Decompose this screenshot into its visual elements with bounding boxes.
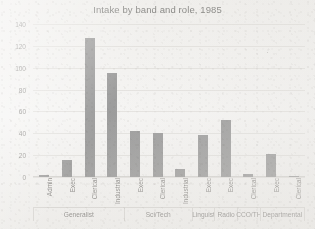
x-axis-group-labels: GeneralistSci/TechLinguistRadioCCO/THDep… — [33, 207, 305, 221]
x-axis-group-cell: Generalist — [33, 207, 124, 221]
x-axis-group-label: Linguist — [192, 211, 215, 218]
y-axis: 020406080100120140 — [0, 24, 31, 177]
x-axis-group-label: CCO/TH — [236, 211, 261, 218]
x-axis-group-label: Sci/Tech — [146, 211, 171, 218]
x-axis-group-cell: Sci/Tech — [124, 207, 192, 221]
y-axis-tick-label: 100 — [15, 64, 26, 71]
x-axis-group-cell: Departmental — [260, 207, 305, 221]
x-axis-role-label: Exec — [228, 178, 234, 192]
bar[interactable] — [221, 120, 231, 177]
x-axis-role-label: Clerical — [251, 178, 257, 199]
bar[interactable] — [198, 135, 208, 177]
bar[interactable] — [62, 160, 72, 177]
x-axis-group-label: Departmental — [263, 211, 303, 218]
x-axis-role-label: Exec — [274, 178, 280, 192]
x-axis-role-label: Clerical — [160, 178, 166, 199]
scan-speck — [267, 52, 268, 53]
x-axis-role-label: Clerical — [296, 178, 302, 199]
bar[interactable] — [175, 169, 185, 177]
x-axis-role-labels: AdminExecClericalIndustrialExecClericalI… — [33, 178, 305, 208]
bar[interactable] — [153, 133, 163, 177]
y-axis-tick-label: 140 — [15, 21, 26, 28]
x-axis-role-label: Clerical — [92, 178, 98, 199]
x-axis-group-cell: CCO/TH — [237, 207, 260, 221]
y-axis-tick-label: 20 — [19, 152, 26, 159]
bar[interactable] — [107, 73, 117, 177]
x-axis-role-label: Industrial — [115, 178, 121, 204]
bar[interactable] — [266, 154, 276, 177]
y-axis-tick-label: 60 — [19, 108, 26, 115]
bar[interactable] — [39, 175, 49, 177]
y-axis-tick-label: 0 — [22, 174, 26, 181]
bar[interactable] — [243, 174, 253, 177]
y-axis-tick-label: 40 — [19, 130, 26, 137]
bar[interactable] — [85, 38, 95, 177]
y-axis-tick-label: 80 — [19, 86, 26, 93]
bar-chart: Intake by band and role, 1985 0204060801… — [0, 0, 315, 229]
x-axis-role-label: Industrial — [183, 178, 189, 204]
bar[interactable] — [130, 131, 140, 177]
x-axis-role-label: Exec — [70, 178, 76, 192]
x-axis-group-cell: Linguist — [192, 207, 215, 221]
x-axis-role-label: Exec — [138, 178, 144, 192]
x-axis-group-label: Generalist — [64, 211, 94, 218]
x-axis-role-label: Exec — [206, 178, 212, 192]
x-axis-role-label: Admin — [47, 178, 53, 196]
y-axis-tick-label: 120 — [15, 42, 26, 49]
bar[interactable] — [289, 176, 299, 177]
chart-title: Intake by band and role, 1985 — [0, 4, 315, 15]
x-axis-group-label: Radio — [218, 211, 235, 218]
bars-layer — [33, 24, 305, 177]
x-axis-group-cell: Radio — [214, 207, 237, 221]
